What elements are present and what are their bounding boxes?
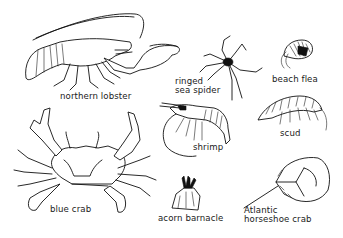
label-blue-crab: blue crab bbox=[50, 205, 91, 214]
label-acorn-barnacle: acorn barnacle bbox=[158, 214, 223, 223]
label-atlantic-horseshoe-crab: Atlantic horseshoe crab bbox=[244, 206, 312, 223]
label-beach-flea: beach flea bbox=[272, 75, 318, 84]
label-ringed-sea-spider: ringed sea spider bbox=[175, 77, 220, 94]
blue-crab-drawing bbox=[14, 108, 156, 212]
acorn-barnacle-drawing bbox=[172, 176, 200, 210]
crustacean-illustration: northern lobster ringed sea spider beach… bbox=[0, 0, 343, 238]
label-scud: scud bbox=[280, 129, 301, 138]
atlantic-horseshoe-crab-drawing bbox=[244, 157, 330, 208]
label-shrimp: shrimp bbox=[193, 143, 223, 152]
scud-drawing bbox=[258, 96, 327, 130]
line-drawings bbox=[0, 0, 343, 238]
label-northern-lobster: northern lobster bbox=[60, 92, 131, 101]
beach-flea-drawing bbox=[281, 40, 312, 68]
northern-lobster-drawing bbox=[26, 14, 180, 90]
